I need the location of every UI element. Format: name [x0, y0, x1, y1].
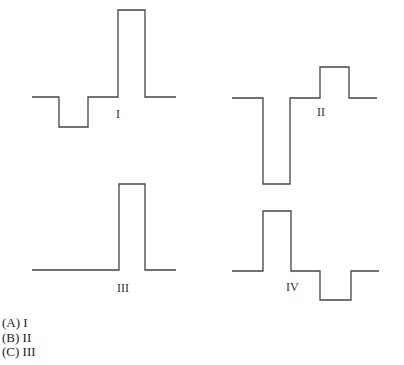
waveform-iv	[232, 211, 379, 300]
option-c: (C) III	[2, 345, 36, 358]
option-a: (A) I	[2, 316, 28, 329]
option-b: (B) II	[2, 331, 31, 344]
figure-label-iv: IV	[286, 281, 299, 293]
waveform-iii	[32, 184, 176, 270]
figure-label-ii: II	[317, 106, 325, 118]
pulse-diagrams	[0, 0, 404, 365]
figure-label-i: I	[116, 108, 120, 120]
waveform-i	[32, 10, 176, 127]
figure-label-iii: III	[117, 282, 129, 294]
waveform-ii	[232, 67, 377, 184]
